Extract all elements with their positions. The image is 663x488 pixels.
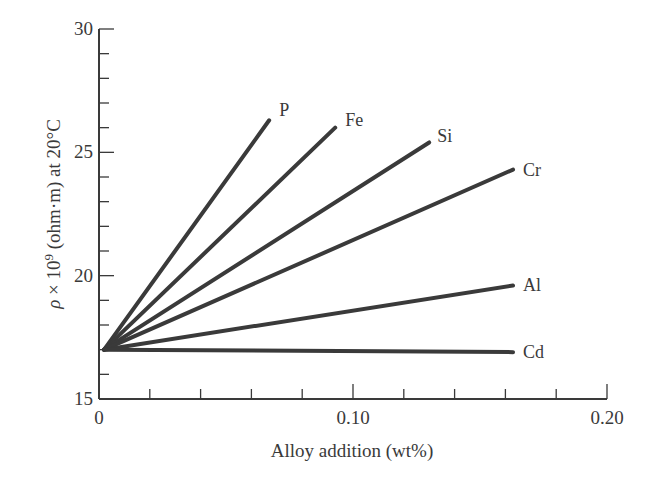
- series-label-si: Si: [437, 126, 452, 146]
- series-labels: PFeSiCrAlCd: [279, 100, 544, 362]
- tick-labels: 1520253000.100.20: [74, 18, 624, 428]
- series-line-al: [104, 286, 513, 350]
- series-label-cr: Cr: [523, 160, 541, 180]
- y-axis-title: ρ × 109 (ohm·m) at 20°C: [41, 119, 66, 310]
- series-label-fe: Fe: [345, 110, 363, 130]
- x-tick-label: 0.10: [336, 407, 369, 428]
- series-line-cr: [104, 170, 513, 350]
- series-line-fe: [104, 128, 335, 350]
- y-tick-label: 15: [74, 388, 93, 409]
- y-tick-label: 30: [74, 18, 93, 39]
- series-lines: [104, 120, 513, 352]
- series-line-cd: [104, 350, 513, 352]
- x-axis-title: Alloy addition (wt%): [271, 440, 434, 462]
- y-tick-label: 25: [74, 141, 93, 162]
- resistivity-chart: 1520253000.100.20 PFeSiCrAlCd Alloy addi…: [0, 0, 663, 488]
- series-line-si: [104, 142, 429, 349]
- y-tick-label: 20: [74, 265, 93, 286]
- series-label-al: Al: [523, 275, 541, 295]
- series-label-p: P: [279, 100, 289, 120]
- x-tick-label: 0.20: [590, 407, 623, 428]
- x-tick-label: 0: [94, 407, 104, 428]
- series-label-cd: Cd: [523, 342, 544, 362]
